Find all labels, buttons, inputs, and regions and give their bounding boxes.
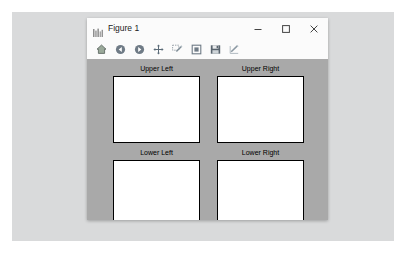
navigation-toolbar [87,39,328,59]
subplot-lower-right[interactable]: Lower Right [217,160,304,220]
matplotlib-figure-window[interactable]: Figure 1 [87,18,328,220]
minimize-button[interactable] [244,18,272,39]
window-title-text: Figure 1 [108,24,139,33]
matplotlib-icon [93,24,103,34]
forward-arrow-icon[interactable] [131,41,147,57]
axes-area-upper-left[interactable] [113,76,200,143]
axes-area-upper-right[interactable] [217,76,304,143]
pan-move-icon[interactable] [150,41,166,57]
subplot-title-upper-left: Upper Left [113,65,200,72]
desktop-background: Figure 1 [12,12,394,241]
close-button[interactable] [300,18,328,39]
subplot-lower-left[interactable]: Lower Left [113,160,200,220]
home-icon[interactable] [93,41,109,57]
figure-canvas[interactable]: Upper Left Upper Right Lower Left Lower … [87,59,328,220]
subplot-title-lower-left: Lower Left [113,149,200,156]
zoom-rect-icon[interactable] [169,41,185,57]
subplot-upper-right[interactable]: Upper Right [217,76,304,143]
window-title-bar[interactable]: Figure 1 [87,18,328,39]
save-disk-icon[interactable] [207,41,223,57]
edit-axis-icon[interactable] [226,41,242,57]
subplot-upper-left[interactable]: Upper Left [113,76,200,143]
window-controls [244,18,328,39]
configure-subplots-icon[interactable] [188,41,204,57]
subplot-title-upper-right: Upper Right [217,65,304,72]
axes-area-lower-left[interactable] [113,160,200,220]
axes-area-lower-right[interactable] [217,160,304,220]
subplot-title-lower-right: Lower Right [217,149,304,156]
back-arrow-icon[interactable] [112,41,128,57]
maximize-button[interactable] [272,18,300,39]
screenshot-page: Figure 1 [0,0,406,253]
